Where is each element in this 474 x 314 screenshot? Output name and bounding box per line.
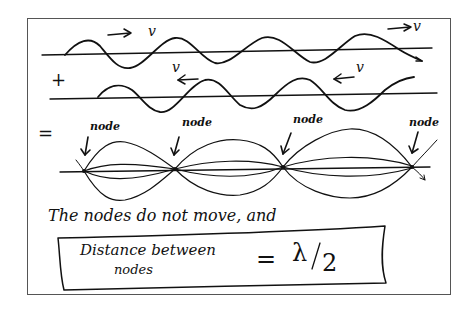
result-line-1: Distance between — [80, 243, 216, 258]
node-label-2: node — [182, 117, 212, 128]
node-point — [281, 165, 285, 169]
node-label-1: node — [90, 121, 120, 132]
velocity-label-top-right: v — [413, 19, 421, 33]
top-wave — [42, 24, 432, 68]
fraction-slash — [312, 243, 320, 269]
node-label-4: node — [409, 117, 439, 128]
velocity-label-bottom-left: v — [172, 60, 180, 74]
wave-drawing — [0, 0, 474, 314]
standing-wave — [60, 129, 437, 200]
down-arrow-icon — [281, 133, 291, 154]
down-arrow-icon — [171, 137, 179, 155]
node-point — [173, 167, 177, 171]
lambda-symbol: λ — [292, 241, 307, 265]
plus-operator: + — [51, 71, 66, 89]
velocity-label-top-left: v — [148, 24, 156, 38]
result-equals: = — [256, 247, 276, 271]
equals-operator: = — [38, 125, 53, 143]
caption-text: The nodes do not move, and — [48, 208, 276, 224]
node-point — [410, 165, 414, 169]
bottom-wave — [50, 74, 437, 112]
down-arrow-icon — [409, 132, 418, 153]
denominator-two: 2 — [322, 251, 337, 275]
node-point — [82, 169, 86, 173]
node-label-3: node — [293, 114, 323, 125]
velocity-label-bottom-right: v — [356, 60, 364, 74]
left-arrow-icon — [178, 79, 198, 80]
down-arrow-icon — [81, 137, 90, 155]
result-line-2: nodes — [114, 263, 153, 276]
